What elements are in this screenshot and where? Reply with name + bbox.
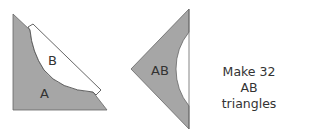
instruction-line-2: AB triangles <box>214 80 283 112</box>
instruction-text: Make 32 AB triangles <box>214 64 283 112</box>
label-b: B <box>48 53 57 68</box>
label-ab: AB <box>151 63 169 78</box>
label-a: A <box>40 86 49 101</box>
instruction-line-1: Make 32 <box>214 64 283 80</box>
